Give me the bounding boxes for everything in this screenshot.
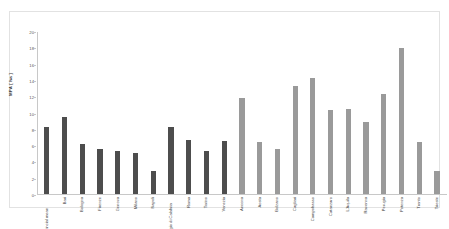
x-tick-label: Bolzano	[275, 197, 280, 212]
bar[interactable]	[222, 141, 227, 194]
y-axis-title: MPA [ ha ]	[8, 36, 13, 96]
bar-slot	[215, 32, 233, 194]
y-axis-tick-labels: 02468101214161820	[19, 32, 36, 195]
bar[interactable]	[381, 94, 386, 194]
bar-slot	[410, 32, 428, 194]
y-tick-mark	[34, 32, 36, 33]
bar-slot	[198, 32, 216, 194]
bar[interactable]	[168, 127, 173, 194]
x-slot: Bari	[56, 196, 74, 229]
x-slot: L'Aquila	[339, 196, 357, 229]
x-slot: Roma	[180, 196, 198, 229]
y-tick-mark	[34, 162, 36, 163]
y-tick-mark	[34, 114, 36, 115]
bar[interactable]	[115, 151, 120, 194]
x-tick-label: Bari	[62, 197, 67, 204]
bar-slot	[38, 32, 56, 194]
bar-slot	[91, 32, 109, 194]
x-tick-label: Ravenna	[364, 197, 369, 213]
bar[interactable]	[257, 142, 262, 194]
bar[interactable]	[434, 171, 439, 194]
bar-slot	[339, 32, 357, 194]
y-tick-mark	[34, 97, 36, 98]
bar[interactable]	[363, 122, 368, 194]
x-slot: Trieste	[428, 196, 446, 229]
bar[interactable]	[186, 140, 191, 194]
bar-slot	[304, 32, 322, 194]
bar-chart: MPA [ ha ] 02468101214161820 Provincial …	[0, 0, 449, 229]
x-slot: Bologna	[73, 196, 91, 229]
y-tick-mark	[34, 81, 36, 82]
y-tick-mark	[34, 130, 36, 131]
x-tick-label: Genova	[116, 197, 121, 211]
bar-slot	[162, 32, 180, 194]
x-tick-label: Reggio di Calabria	[169, 197, 174, 229]
x-slot: Torino	[198, 196, 216, 229]
y-tick-mark	[34, 65, 36, 66]
bar[interactable]	[417, 142, 422, 194]
x-tick-label: Aosta	[257, 197, 262, 207]
chart-frame: MPA [ ha ] 02468101214161820 Provincial …	[9, 11, 440, 208]
bar-slot	[269, 32, 287, 194]
x-tick-label: Firenze	[98, 197, 103, 211]
bar[interactable]	[62, 117, 67, 194]
bar[interactable]	[133, 153, 138, 194]
bar[interactable]	[310, 78, 315, 194]
x-slot: Potenza	[393, 196, 411, 229]
x-tick-label: Milano	[133, 197, 138, 209]
bar[interactable]	[328, 110, 333, 194]
y-tick-mark	[34, 179, 36, 180]
bar[interactable]	[151, 171, 156, 194]
bar-slot	[73, 32, 91, 194]
x-slot: Perugia	[375, 196, 393, 229]
y-tick-mark	[34, 146, 36, 147]
x-tick-label: Catanzaro	[328, 197, 333, 216]
x-tick-label: Torino	[204, 197, 209, 208]
x-slot: Reggio di Calabria	[162, 196, 180, 229]
x-slot: Venezia	[215, 196, 233, 229]
x-slot: Cagliari	[286, 196, 304, 229]
x-slot: Milano	[127, 196, 145, 229]
bar[interactable]	[399, 48, 404, 194]
bar-slot	[144, 32, 162, 194]
bar[interactable]	[275, 149, 280, 194]
bar[interactable]	[293, 86, 298, 194]
bar-slot	[109, 32, 127, 194]
x-tick-label: L'Aquila	[346, 197, 351, 211]
y-tick-mark	[34, 48, 36, 49]
x-slot: Trento	[410, 196, 428, 229]
x-slot: Ravenna	[357, 196, 375, 229]
x-slot: Ancona	[233, 196, 251, 229]
x-slot: Campobasso	[304, 196, 322, 229]
bar-slot	[428, 32, 446, 194]
x-slot: Genova	[109, 196, 127, 229]
bar-slot	[127, 32, 145, 194]
x-tick-label: Cagliari	[293, 197, 298, 211]
bar-slot	[375, 32, 393, 194]
bar[interactable]	[346, 109, 351, 194]
x-tick-label: Roma	[186, 197, 191, 208]
x-tick-label: Provincial mean	[45, 197, 50, 229]
bar-slot	[180, 32, 198, 194]
x-tick-label: Trieste	[435, 197, 440, 209]
x-tick-label: Venezia	[222, 197, 227, 212]
x-slot: Bolzano	[269, 196, 287, 229]
x-slot: Napoli	[144, 196, 162, 229]
x-slot: Aosta	[251, 196, 269, 229]
x-tick-label: Perugia	[382, 197, 387, 211]
bar-slot	[357, 32, 375, 194]
x-tick-label: Campobasso	[311, 197, 316, 221]
bar-slot	[286, 32, 304, 194]
x-slot: Provincial mean	[38, 196, 56, 229]
bar-slot	[56, 32, 74, 194]
bar[interactable]	[44, 127, 49, 194]
bar[interactable]	[239, 98, 244, 194]
x-slot: Firenze	[91, 196, 109, 229]
bar[interactable]	[80, 144, 85, 194]
x-tick-label: Napoli	[151, 197, 156, 209]
bar[interactable]	[97, 149, 102, 194]
x-axis-tick-labels: Provincial meanBariBolognaFirenzeGenovaM…	[38, 196, 446, 229]
bar-slot	[233, 32, 251, 194]
bar[interactable]	[204, 151, 209, 194]
bar-slot	[251, 32, 269, 194]
